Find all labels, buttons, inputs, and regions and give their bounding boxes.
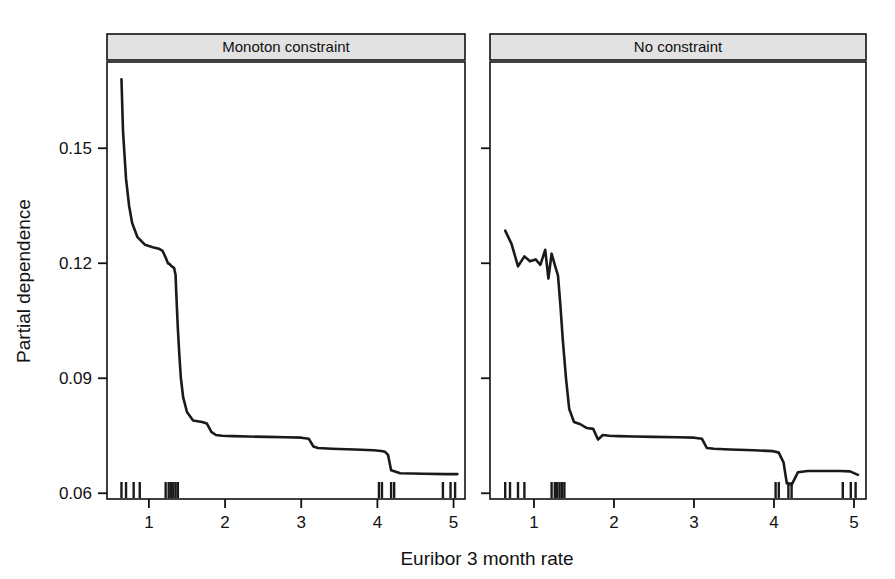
x-tick-label: 2 [609,513,618,532]
x-tick-label: 2 [220,513,229,532]
figure-canvas: Monoton constraint 12345 0.060.090.120.1… [0,0,895,579]
y-tick-label: 0.06 [59,484,92,503]
y-tick-label: 0.15 [59,139,92,158]
x-tick-label: 5 [849,513,858,532]
y-tick-label: 0.12 [59,254,92,273]
x-tick-label: 3 [689,513,698,532]
x-tick-label: 5 [449,513,458,532]
x-tick-label: 1 [529,513,538,532]
x-axis-title: Euribor 3 month rate [400,548,573,569]
partial-dependence-figure: Monoton constraint 12345 0.060.090.120.1… [0,0,895,579]
strip-label-monoton: Monoton constraint [222,38,350,55]
x-tick-label: 4 [373,513,382,532]
y-axis-title: Partial dependence [13,199,34,363]
strip-label-noconstraint: No constraint [634,38,723,55]
x-tick-label: 3 [296,513,305,532]
y-tick-label: 0.09 [59,369,92,388]
x-tick-label: 4 [769,513,778,532]
x-tick-label: 1 [144,513,153,532]
